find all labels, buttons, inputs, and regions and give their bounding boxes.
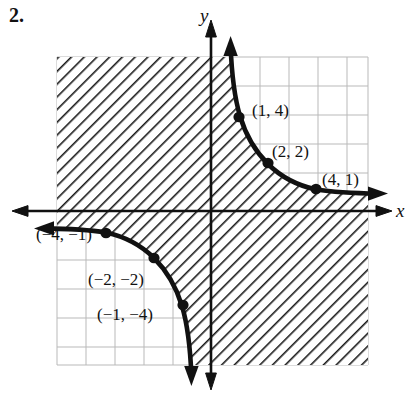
point-m2-m2 xyxy=(148,253,159,263)
point-label-2-2: (2, 2) xyxy=(272,142,309,162)
point-m1-m4 xyxy=(177,300,188,310)
point-1-4 xyxy=(233,112,244,122)
y-axis-label: y xyxy=(200,5,208,27)
point-label-4-1: (4, 1) xyxy=(322,170,359,190)
x-axis-label: x xyxy=(396,200,404,222)
point-label-m4-m1: (−4, −1) xyxy=(36,225,92,245)
point-label-1-4: (1, 4) xyxy=(252,101,289,121)
hyperbola-graph xyxy=(0,0,412,409)
point-m4-m1 xyxy=(100,228,111,238)
point-label-m2-m2: (−2, −2) xyxy=(88,270,144,290)
point-4-1 xyxy=(310,184,321,194)
point-label-m1-m4: (−1, −4) xyxy=(97,305,153,325)
figure-canvas: 2. xyxy=(0,0,412,409)
